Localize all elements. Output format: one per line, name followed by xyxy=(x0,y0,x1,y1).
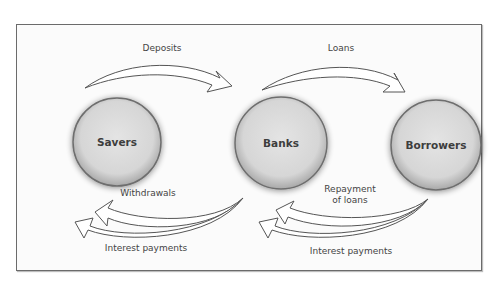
deposits-label: Deposits xyxy=(142,43,181,54)
banks-label: Banks xyxy=(263,137,299,149)
loans-arrow xyxy=(262,67,405,92)
interest-payments-left-label: Interest payments xyxy=(105,243,187,254)
interest-payments-right-label: Interest payments xyxy=(310,246,392,257)
loans-label: Loans xyxy=(328,43,354,54)
deposits-arrow xyxy=(85,65,232,92)
repayment-label-line2: of loans xyxy=(332,195,367,206)
repayment-label-line1: Repayment xyxy=(324,184,375,195)
withdrawals-label: Withdrawals xyxy=(120,188,175,199)
savers-label: Savers xyxy=(97,136,137,148)
withdrawals-arrow xyxy=(95,198,243,227)
borrowers-label: Borrowers xyxy=(405,139,466,151)
